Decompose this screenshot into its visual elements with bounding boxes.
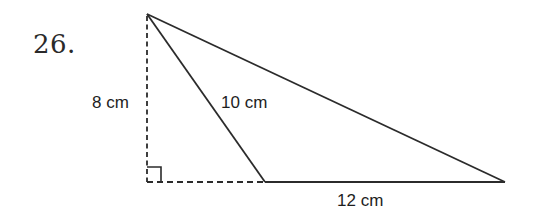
right-angle-marker [147,167,161,182]
height-label: 8 cm [92,93,129,113]
long-side-line [147,14,505,182]
slant-side-label: 10 cm [221,93,267,113]
base-label: 12 cm [337,191,383,211]
